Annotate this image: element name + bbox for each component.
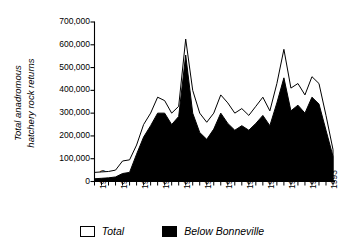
legend-entry-total: Total: [80, 225, 124, 237]
area-series-group: [95, 39, 334, 181]
plot-area: [0, 0, 344, 247]
chart-figure: Total anadromous hatchery rock returns 0…: [0, 0, 344, 247]
black-square-icon: [162, 226, 177, 237]
chart-legend: Total Below Bonneville: [0, 219, 344, 243]
legend-label-total: Total: [102, 225, 124, 237]
legend-entry-below-bonneville: Below Bonneville: [162, 225, 264, 237]
legend-label-below-bonneville: Below Bonneville: [184, 225, 264, 237]
white-square-icon: [80, 226, 95, 237]
